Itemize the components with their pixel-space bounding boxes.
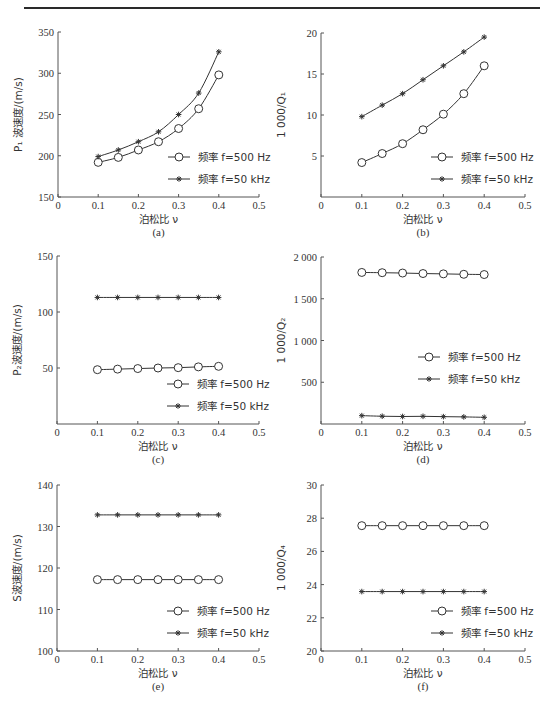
- circle-marker-icon: [378, 269, 386, 277]
- circle-marker-icon: [215, 576, 223, 584]
- star-marker-icon: [135, 512, 141, 518]
- star-marker-icon: [136, 139, 142, 145]
- legend: 频率 f=500 Hz频率 f=50 kHz: [418, 351, 521, 385]
- circle-marker-icon: [134, 365, 142, 373]
- y-tick-label: 28: [307, 513, 318, 524]
- series-50khz: [359, 413, 487, 420]
- star-marker-icon: [116, 147, 122, 153]
- legend-label: 频率 f=50 kHz: [197, 400, 270, 412]
- circle-marker-icon: [154, 364, 162, 372]
- circle-marker-icon: [194, 576, 202, 584]
- legend-star-icon: [175, 630, 181, 636]
- x-tick-label: 0.1: [92, 200, 105, 211]
- panel-caption: (c): [152, 453, 165, 466]
- figure-canvas: 00.10.20.30.40.5150200250300350泊松比 ν(a)P…: [0, 0, 560, 716]
- y-tick-label: 100: [37, 307, 53, 318]
- y-tick-label: 200: [38, 151, 54, 162]
- legend-star-icon: [439, 176, 445, 182]
- star-marker-icon: [481, 415, 487, 421]
- star-marker-icon: [461, 414, 467, 420]
- x-tick-label: 0.2: [131, 427, 144, 438]
- star-marker-icon: [441, 414, 447, 420]
- circle-marker-icon: [378, 522, 386, 530]
- star-marker-icon: [95, 154, 101, 160]
- legend-circle-icon: [425, 353, 433, 361]
- x-tick-label: 0.3: [172, 200, 185, 211]
- star-marker-icon: [461, 49, 467, 55]
- star-marker-icon: [196, 295, 202, 301]
- circle-marker-icon: [439, 270, 447, 278]
- series-500hz: [93, 362, 222, 373]
- star-marker-icon: [115, 295, 121, 301]
- x-tick-label: 0.1: [355, 654, 368, 665]
- x-tick-label: 0.3: [172, 427, 185, 438]
- star-marker-icon: [155, 512, 161, 518]
- legend-circle-icon: [438, 607, 446, 615]
- circle-marker-icon: [114, 365, 122, 373]
- circle-marker-icon: [439, 522, 447, 530]
- x-tick-label: 0.3: [437, 200, 450, 211]
- x-tick-label: 0: [54, 654, 59, 665]
- legend-label: 频率 f=500 Hz: [197, 605, 270, 617]
- star-marker-icon: [359, 114, 365, 120]
- star-marker-icon: [95, 512, 101, 518]
- x-tick-label: 0: [55, 200, 60, 211]
- star-marker-icon: [420, 589, 426, 595]
- star-marker-icon: [359, 413, 365, 419]
- star-marker-icon: [400, 414, 406, 420]
- legend-circle-icon: [175, 153, 183, 161]
- legend-circle-icon: [438, 153, 446, 161]
- y-tick-label: 30: [307, 480, 318, 491]
- star-marker-icon: [216, 49, 222, 55]
- x-tick-label: 0.5: [518, 200, 531, 211]
- star-marker-icon: [400, 589, 406, 595]
- circle-marker-icon: [419, 126, 427, 134]
- y-tick-label: 500: [301, 377, 317, 388]
- x-axis-label: 泊松比 ν: [403, 667, 442, 679]
- x-tick-label: 0: [318, 654, 323, 665]
- panel-caption: (a): [152, 226, 165, 239]
- x-axis-label: 泊松比 ν: [403, 213, 442, 225]
- chart-panel-d: 00.10.20.30.40.55001 0001 5002 000泊松比 ν(…: [275, 252, 532, 466]
- chart-panel-e: 00.10.20.30.40.5100110120130140泊松比 ν(e)S…: [11, 480, 270, 693]
- star-marker-icon: [175, 512, 181, 518]
- circle-marker-icon: [399, 522, 407, 530]
- circle-marker-icon: [195, 105, 203, 113]
- x-tick-label: 0.4: [478, 654, 492, 665]
- star-marker-icon: [95, 295, 101, 301]
- legend-star-icon: [176, 176, 182, 182]
- y-tick-label: 1 500: [293, 294, 317, 305]
- y-tick-label: 140: [37, 480, 53, 491]
- star-marker-icon: [420, 414, 426, 420]
- circle-marker-icon: [134, 576, 142, 584]
- chart-panel-f: 00.10.20.30.40.5202224262830泊松比 ν(f)1 00…: [275, 480, 534, 693]
- y-axis-label: 1 000/Q₂: [275, 317, 287, 363]
- x-tick-label: 0: [318, 200, 323, 211]
- y-tick-label: 26: [307, 546, 318, 557]
- x-tick-label: 0.5: [252, 654, 265, 665]
- circle-marker-icon: [460, 90, 468, 98]
- y-tick-label: 100: [37, 646, 53, 657]
- star-marker-icon: [216, 295, 222, 301]
- x-tick-label: 0.5: [252, 200, 265, 211]
- x-tick-label: 0.1: [91, 654, 104, 665]
- circle-marker-icon: [399, 140, 407, 148]
- x-tick-label: 0.2: [396, 654, 409, 665]
- circle-marker-icon: [154, 576, 162, 584]
- circle-marker-icon: [174, 576, 182, 584]
- star-marker-icon: [441, 63, 447, 69]
- x-axis-label: 泊松比 ν: [139, 213, 178, 225]
- circle-marker-icon: [174, 364, 182, 372]
- circle-marker-icon: [93, 576, 101, 584]
- legend-star-icon: [439, 630, 445, 636]
- circle-marker-icon: [378, 150, 386, 158]
- chart-panel-a: 00.10.20.30.40.5150200250300350泊松比 ν(a)P…: [12, 27, 271, 239]
- star-marker-icon: [379, 589, 385, 595]
- circle-marker-icon: [215, 71, 223, 79]
- series-500hz: [358, 268, 488, 278]
- panel-caption: (b): [417, 226, 430, 239]
- x-tick-label: 0.3: [437, 654, 450, 665]
- y-tick-label: 22: [307, 613, 318, 624]
- x-tick-label: 0.5: [518, 427, 531, 438]
- legend: 频率 f=500 Hz频率 f=50 kHz: [431, 605, 534, 639]
